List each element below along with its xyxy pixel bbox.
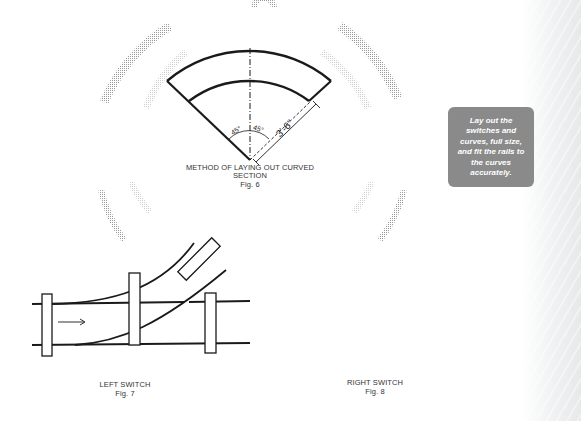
fig6-curved-section <box>167 48 331 165</box>
fig8-title: RIGHT SWITCH <box>347 378 403 387</box>
fig7-left-switch <box>32 238 250 356</box>
fig6-title-line2: SECTION <box>233 171 267 180</box>
fig6-caption: METHOD OF LAYING OUT CURVED SECTION Fig.… <box>170 164 330 189</box>
diagram-canvas: 45° 45° 3'-6" <box>0 0 581 421</box>
fig6-radius-dimension: 3'-6" <box>274 117 296 139</box>
fig8-caption: RIGHT SWITCH Fig. 8 <box>330 379 420 396</box>
fig7-title: LEFT SWITCH <box>100 380 151 389</box>
fig6-label: Fig. 6 <box>170 181 330 189</box>
tip-callout-text: Lay out the switches and curves, full si… <box>453 116 529 179</box>
fig6-angle-right: 45° <box>252 124 265 134</box>
fig8-label: Fig. 8 <box>330 388 420 396</box>
decorative-stipple-arcs <box>101 0 404 240</box>
fig7-label: Fig. 7 <box>80 390 170 398</box>
fig7-caption: LEFT SWITCH Fig. 7 <box>80 381 170 398</box>
tip-callout: Lay out the switches and curves, full si… <box>448 107 534 187</box>
fig6-angle-left: 45° <box>230 125 243 136</box>
